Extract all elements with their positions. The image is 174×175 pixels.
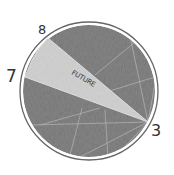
diagram-canvas: FUTURE 8 7 3: [0, 0, 174, 175]
point-label-7: 7: [6, 66, 17, 86]
point-label-8: 8: [38, 22, 46, 37]
clock-diagram: FUTURE 8 7 3: [0, 0, 174, 175]
point-label-3: 3: [151, 121, 161, 140]
